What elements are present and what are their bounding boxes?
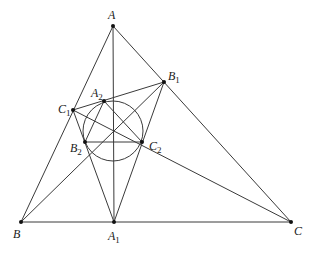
point-a1 [112,220,116,224]
point-c1 [71,108,75,112]
point-a [111,24,115,28]
label-b1: B1 [168,69,180,85]
points-group [19,24,293,224]
point-b2 [83,140,87,144]
label-c2: C2 [149,139,162,155]
label-c: C [294,224,303,238]
label-b2: B2 [70,141,82,157]
segment-c-c1 [73,110,291,222]
label-a1: A1 [107,229,120,245]
label-a: A [107,8,116,22]
segment-a1-c1 [73,110,114,222]
point-c2 [140,140,144,144]
point-b [19,220,23,224]
label-b: B [13,227,21,241]
label-a2: A2 [90,86,103,102]
segment-a-c [113,26,291,222]
labels-group: ABCA1B1C1A2B2C2 [13,8,303,245]
segment-a-a1 [113,26,114,222]
triangle-diagram: ABCA1B1C1A2B2C2 [0,0,315,259]
segments-group [21,26,291,222]
label-c1: C1 [58,102,71,118]
point-c [289,220,293,224]
segment-b-b1 [21,82,164,222]
point-b1 [162,80,166,84]
